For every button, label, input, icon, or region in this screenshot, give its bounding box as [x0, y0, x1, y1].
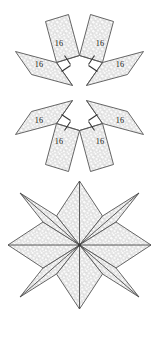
figure-root: 16 16 16 16 — [0, 0, 159, 337]
star-center-point — [78, 243, 81, 246]
piece-bottom-left-label-vertical: 16 — [55, 137, 64, 146]
piece-bottom-left[interactable]: 16 16 — [16, 101, 80, 172]
piece-top-right-label-vertical: 16 — [96, 39, 105, 48]
piece-bottom-right-label-vertical: 16 — [96, 137, 105, 146]
assembled-star[interactable] — [8, 181, 151, 309]
piece-bottom-right-vertical-rhombus — [80, 124, 114, 172]
piece-bottom-right[interactable]: 16 16 — [80, 101, 144, 172]
piece-top-left[interactable]: 16 16 — [16, 15, 80, 86]
top-group-four-pieces: 16 16 16 16 — [16, 15, 144, 172]
piece-bottom-left-label-horizontal: 16 — [35, 116, 44, 125]
piece-top-left-label-horizontal: 16 — [35, 60, 44, 69]
piece-top-left-label-vertical: 16 — [55, 39, 64, 48]
piece-top-right[interactable]: 16 16 — [80, 15, 144, 86]
piece-top-right-label-horizontal: 16 — [116, 60, 125, 69]
star-assembly-figure: 16 16 16 16 — [0, 0, 159, 337]
piece-bottom-left-vertical-rhombus — [46, 124, 80, 172]
piece-bottom-right-label-horizontal: 16 — [116, 116, 125, 125]
